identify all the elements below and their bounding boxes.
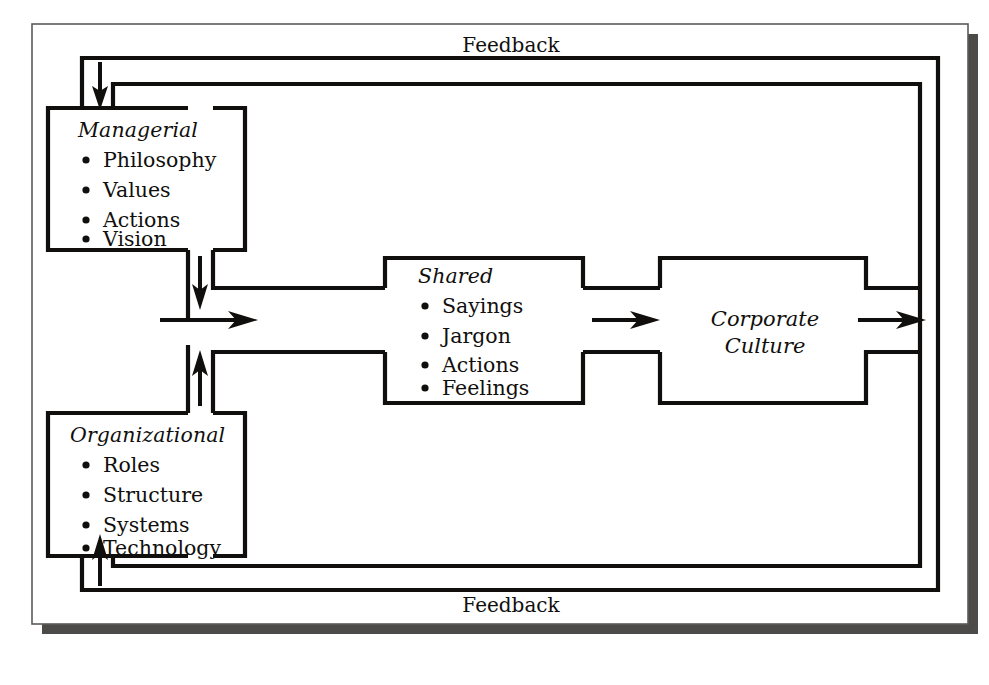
managerial-bullet-3 xyxy=(82,235,89,242)
managerial-item-0: Philosophy xyxy=(103,148,217,172)
managerial-item-3: Vision xyxy=(102,227,167,251)
shared-bullet-2 xyxy=(421,361,428,368)
organizational-item-1: Structure xyxy=(103,483,203,507)
corporate-culture-diagram: Managerial Philosophy Values Actions Vis… xyxy=(0,0,989,685)
organizational-item-0: Roles xyxy=(103,453,160,477)
organizational-title: Organizational xyxy=(70,423,225,447)
shared-item-1: Jargon xyxy=(440,324,511,348)
shared-title: Shared xyxy=(418,264,493,288)
shared-bullet-1 xyxy=(421,332,428,339)
shared-item-0: Sayings xyxy=(442,294,523,318)
managerial-item-1: Values xyxy=(102,178,171,202)
organizational-item-2: Systems xyxy=(103,513,189,537)
managerial-bullet-0 xyxy=(82,156,89,163)
organizational-item-3: Technology xyxy=(103,536,221,560)
feedback-label-bottom: Feedback xyxy=(462,593,560,617)
feedback-label-top: Feedback xyxy=(462,33,560,57)
organizational-bullet-2 xyxy=(82,521,89,528)
managerial-title: Managerial xyxy=(77,118,198,142)
shared-bullet-0 xyxy=(421,302,428,309)
shared-item-2: Actions xyxy=(441,353,519,377)
organizational-bullet-3 xyxy=(82,544,89,551)
shared-bullet-3 xyxy=(421,384,428,391)
shared-item-3: Feelings xyxy=(442,376,529,400)
managerial-bullet-1 xyxy=(82,186,89,193)
corporate-culture-line2: Culture xyxy=(725,334,806,358)
organizational-bullet-1 xyxy=(82,491,89,498)
corporate-culture-line1: Corporate xyxy=(711,307,819,331)
organizational-bullet-0 xyxy=(82,461,89,468)
managerial-bullet-2 xyxy=(82,216,89,223)
figure-root: Managerial Philosophy Values Actions Vis… xyxy=(0,0,989,685)
